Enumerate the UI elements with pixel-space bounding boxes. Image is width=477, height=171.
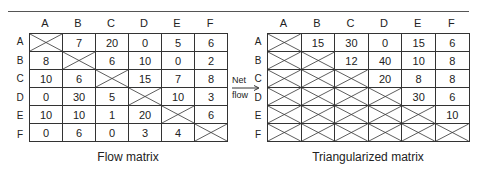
matrix-cell: 30 bbox=[335, 34, 369, 52]
column-header: F bbox=[194, 14, 226, 32]
crossed-cell bbox=[301, 124, 335, 142]
crossed-cell bbox=[301, 106, 335, 124]
cross-icon bbox=[436, 124, 469, 141]
column-header: D bbox=[128, 14, 160, 32]
cross-icon bbox=[402, 106, 435, 123]
matrix-cell: 10 bbox=[162, 88, 195, 106]
matrix-row: 861002 bbox=[30, 52, 228, 70]
matrix-cell: 10 bbox=[129, 52, 162, 70]
cross-icon bbox=[302, 88, 335, 105]
matrix-cell: 3 bbox=[195, 88, 228, 106]
crossed-cell bbox=[30, 34, 63, 52]
cross-icon bbox=[335, 70, 368, 87]
flow-matrix-caption: Flow matrix bbox=[29, 150, 227, 164]
matrix-row bbox=[268, 124, 470, 142]
matrix-row: 306 bbox=[268, 88, 470, 106]
matrix-cell: 6 bbox=[195, 34, 228, 52]
cross-icon bbox=[268, 34, 301, 51]
matrix-row: 10101206 bbox=[30, 106, 228, 124]
crossed-cell bbox=[268, 88, 302, 106]
flow-word: flow bbox=[232, 90, 248, 100]
matrix-cell: 0 bbox=[30, 124, 63, 142]
crossed-cell bbox=[368, 106, 402, 124]
triangularized-matrix-caption: Triangularized matrix bbox=[267, 150, 469, 164]
matrix-cell: 10 bbox=[30, 106, 63, 124]
matrix-cell: 6 bbox=[435, 88, 469, 106]
matrix-cell: 0 bbox=[162, 52, 195, 70]
crossed-cell bbox=[368, 88, 402, 106]
cross-icon bbox=[129, 88, 161, 105]
row-header: D bbox=[12, 92, 28, 103]
matrix-cell: 20 bbox=[96, 34, 129, 52]
matrix-cell: 6 bbox=[96, 52, 129, 70]
net-label: Net bbox=[232, 75, 246, 85]
cross-icon bbox=[369, 88, 402, 105]
crossed-cell bbox=[301, 88, 335, 106]
row-header: F bbox=[250, 129, 266, 140]
matrix-cell: 8 bbox=[195, 70, 228, 88]
flow-matrix: ABCDEFABCDEF7200568610021061578030510310… bbox=[12, 14, 228, 144]
matrix-cell: 0 bbox=[30, 88, 63, 106]
crossed-cell bbox=[301, 52, 335, 70]
matrix-cell: 8 bbox=[402, 70, 436, 88]
cross-icon bbox=[335, 88, 368, 105]
crossed-cell bbox=[162, 106, 195, 124]
matrix-cell: 7 bbox=[63, 34, 96, 52]
matrix-cell: 10 bbox=[402, 52, 436, 70]
cross-icon bbox=[195, 124, 227, 141]
cross-icon bbox=[30, 34, 62, 51]
row-header: A bbox=[250, 36, 266, 47]
matrix-cell: 5 bbox=[162, 34, 195, 52]
matrix-cell: 10 bbox=[30, 70, 63, 88]
column-header: C bbox=[334, 14, 367, 32]
matrix-cell: 30 bbox=[63, 88, 96, 106]
crossed-cell bbox=[96, 70, 129, 88]
cross-icon bbox=[335, 106, 368, 123]
row-header: B bbox=[12, 55, 28, 66]
matrix-row: 0305103 bbox=[30, 88, 228, 106]
crossed-cell bbox=[335, 124, 369, 142]
matrix-cell: 0 bbox=[368, 34, 402, 52]
matrix-cell: 12 bbox=[335, 52, 369, 70]
cross-icon bbox=[302, 124, 335, 141]
matrix-cell: 20 bbox=[368, 70, 402, 88]
cross-icon bbox=[402, 124, 435, 141]
matrix-row: 15300156 bbox=[268, 34, 470, 52]
crossed-cell bbox=[268, 34, 302, 52]
column-header: B bbox=[301, 14, 334, 32]
matrix-cell: 3 bbox=[129, 124, 162, 142]
matrix-cell: 8 bbox=[435, 70, 469, 88]
cross-icon bbox=[268, 70, 301, 87]
crossed-cell bbox=[435, 124, 469, 142]
crossed-cell bbox=[335, 106, 369, 124]
column-header: E bbox=[161, 14, 193, 32]
flow-label: flow bbox=[232, 90, 248, 100]
matrix-cell: 2 bbox=[195, 52, 228, 70]
cross-icon bbox=[335, 124, 368, 141]
triangularized-matrix: ABCDEFABCDEF153001561240108208830610 bbox=[250, 14, 470, 144]
matrix-cell: 4 bbox=[162, 124, 195, 142]
crossed-cell bbox=[63, 52, 96, 70]
cross-icon bbox=[369, 124, 402, 141]
matrix-cell: 8 bbox=[435, 52, 469, 70]
matrix-cell: 20 bbox=[129, 106, 162, 124]
cross-icon bbox=[162, 106, 194, 123]
matrix-cell: 1 bbox=[96, 106, 129, 124]
crossed-cell bbox=[402, 106, 436, 124]
matrix-cell: 6 bbox=[63, 70, 96, 88]
crossed-cell bbox=[301, 70, 335, 88]
cross-icon bbox=[302, 106, 335, 123]
cross-icon bbox=[302, 70, 335, 87]
top-rule bbox=[8, 11, 469, 12]
matrix-cell: 30 bbox=[402, 88, 436, 106]
cross-icon bbox=[268, 88, 301, 105]
matrix-row: 1061578 bbox=[30, 70, 228, 88]
cross-icon bbox=[96, 70, 128, 87]
matrix-grid: 153001561240108208830610 bbox=[267, 33, 470, 142]
matrix-cell: 8 bbox=[30, 52, 63, 70]
matrix-cell: 6 bbox=[435, 34, 469, 52]
crossed-cell bbox=[368, 124, 402, 142]
column-header: C bbox=[95, 14, 127, 32]
matrix-cell: 7 bbox=[162, 70, 195, 88]
column-header: B bbox=[62, 14, 94, 32]
